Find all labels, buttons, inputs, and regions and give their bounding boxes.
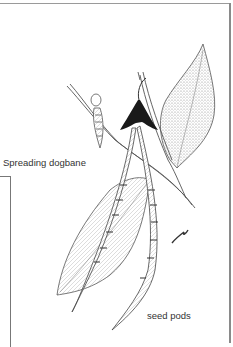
seed-pods-label: seed pods [147,310,191,321]
small-pod-drawing [91,94,103,148]
plant-name-label: Spreading dogbane [3,157,86,168]
leaf-drawing-upper [160,44,214,168]
flower-calyx-drawing [120,78,158,130]
artist-signature [172,230,188,243]
